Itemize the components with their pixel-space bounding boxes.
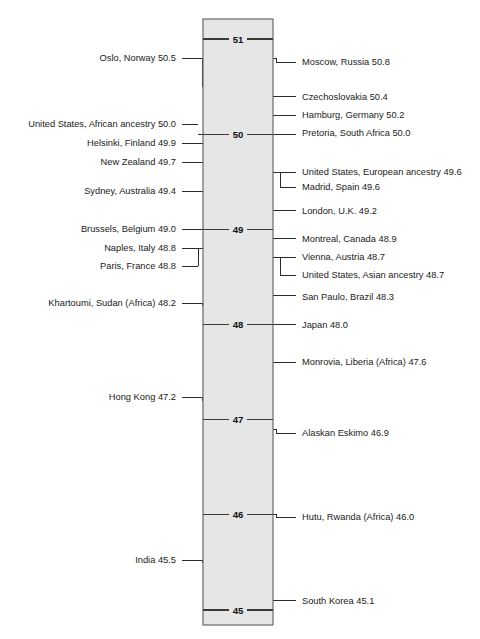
axis-tick-label: 46 xyxy=(233,509,244,520)
right-label: Alaskan Eskimo 46.9 xyxy=(302,428,389,438)
axis-tick-label: 49 xyxy=(233,224,244,235)
left-label: Brussels, Belgium 49.0 xyxy=(81,224,176,234)
right-label: Montreal, Canada 48.9 xyxy=(302,234,397,244)
left-label: India 45.5 xyxy=(135,555,176,565)
chart-root: 51504948474645 Oslo, Norway 50.5United S… xyxy=(0,0,480,639)
right-label: Japan 48.0 xyxy=(302,320,348,330)
percent-water-axis-figure: 51504948474645 Oslo, Norway 50.5United S… xyxy=(0,0,480,639)
left-label: Khartoumi, Sudan (Africa) 48.2 xyxy=(48,298,176,308)
right-label: Pretoria, South Africa 50.0 xyxy=(302,128,411,138)
left-label: Naples, Italy 48.8 xyxy=(104,243,176,253)
left-label: Sydney, Australia 49.4 xyxy=(84,186,176,196)
right-label: Moscow, Russia 50.8 xyxy=(302,57,390,67)
right-label: Madrid, Spain 49.6 xyxy=(302,182,380,192)
axis-tick-label: 47 xyxy=(233,414,244,425)
right-label: South Korea 45.1 xyxy=(302,596,374,606)
axis-tick-label: 45 xyxy=(233,605,244,616)
axis-tick-label: 51 xyxy=(233,34,244,45)
left-label: Paris, France 48.8 xyxy=(100,261,176,271)
right-label: Hutu, Rwanda (Africa) 46.0 xyxy=(302,512,414,522)
axis-tick-label: 48 xyxy=(233,319,244,330)
right-label: Vienna, Austria 48.7 xyxy=(302,252,385,262)
right-label: United States, Asian ancestry 48.7 xyxy=(302,270,444,280)
right-label: United States, European ancestry 49.6 xyxy=(302,167,462,177)
axis-tick-label: 50 xyxy=(233,129,244,140)
left-label: Helsinki, Finland 49.9 xyxy=(87,138,176,148)
left-label: United States, African ancestry 50.0 xyxy=(28,119,176,129)
left-label: Hong Kong 47.2 xyxy=(109,392,176,402)
left-label: New Zealand 49.7 xyxy=(101,157,176,167)
right-label: London, U.K. 49.2 xyxy=(302,206,377,216)
right-label: Hamburg, Germany 50.2 xyxy=(302,110,404,120)
right-label: San Paulo, Brazil 48.3 xyxy=(302,292,394,302)
right-label: Monrovia, Liberia (Africa) 47.6 xyxy=(302,357,427,367)
right-label: Czechoslovakia 50.4 xyxy=(302,92,388,102)
left-label: Oslo, Norway 50.5 xyxy=(100,53,176,63)
